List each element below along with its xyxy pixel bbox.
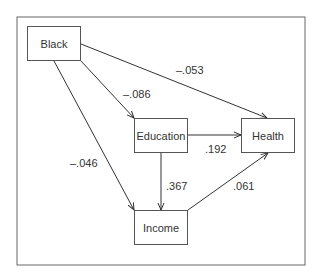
coef-black-education: –.086 <box>123 88 151 100</box>
coef-education-health: .192 <box>205 143 226 155</box>
node-education-label: Education <box>137 130 186 142</box>
node-black-label: Black <box>41 38 68 50</box>
coef-black-income: –.046 <box>70 157 98 169</box>
node-health-label: Health <box>252 130 284 142</box>
edge-income-health <box>188 153 268 210</box>
coef-black-health: –.053 <box>176 64 204 76</box>
edge-black-health <box>81 44 267 118</box>
node-education: Education <box>134 118 188 153</box>
edge-black-income <box>54 61 134 210</box>
node-income-label: Income <box>143 222 179 234</box>
node-health: Health <box>241 118 295 153</box>
coef-income-health: .061 <box>233 180 254 192</box>
node-black: Black <box>27 26 81 61</box>
node-income: Income <box>134 210 188 245</box>
coef-education-income: .367 <box>166 180 187 192</box>
